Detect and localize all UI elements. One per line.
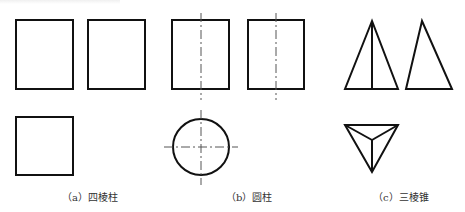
caption-a: （a）四棱柱	[62, 191, 118, 205]
caption-c: （c）三棱锥	[373, 191, 429, 205]
three-view-drawings	[0, 0, 465, 212]
prism-side-view	[88, 20, 145, 89]
prism-top-view	[16, 117, 73, 175]
pyramid-side-view	[406, 21, 452, 89]
panel-a-square-prism	[16, 20, 145, 175]
prism-front-view	[16, 20, 73, 89]
panel-c-triangular-pyramid	[345, 21, 452, 172]
caption-b: （b）圆柱	[226, 191, 272, 205]
panel-b-cylinder	[164, 13, 304, 185]
